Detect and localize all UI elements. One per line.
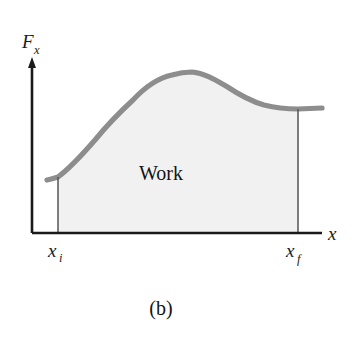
tick-label-xi-symbol: x <box>47 240 57 261</box>
y-axis-arrowhead <box>28 57 36 68</box>
y-axis-label-symbol: F <box>21 31 34 52</box>
work-region-label: Work <box>139 162 183 184</box>
tick-label-xi-subscript: i <box>59 251 63 265</box>
x-axis-label-symbol: x <box>327 223 337 244</box>
tick-label-xf-symbol: x <box>285 240 295 261</box>
work-shaded-region <box>58 72 298 233</box>
work-area-diagram: F x x x i x f Work (b) <box>0 0 354 341</box>
y-axis-label-subscript: x <box>33 43 40 57</box>
tick-label-xf-subscript: f <box>297 252 302 266</box>
figure-canvas: F x x x i x f Work (b) <box>0 0 354 341</box>
figure-caption: (b) <box>149 297 172 320</box>
